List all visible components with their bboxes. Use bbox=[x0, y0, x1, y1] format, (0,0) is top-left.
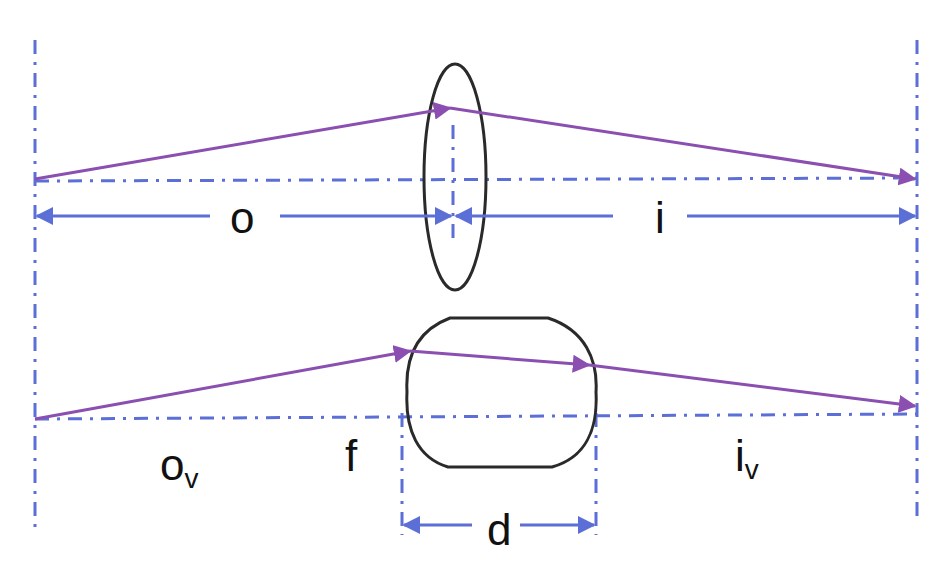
label-thickness: d bbox=[487, 508, 511, 552]
label-object-distance: o bbox=[230, 196, 254, 240]
subscript-v: v bbox=[745, 454, 759, 485]
label-image-distance: i bbox=[655, 196, 665, 240]
bottom-ray-internal bbox=[410, 351, 589, 365]
label-virtual-object-distance: ov bbox=[160, 443, 198, 493]
bottom-ray-outgoing bbox=[589, 365, 915, 406]
thin-lens bbox=[424, 64, 486, 290]
label-focal: f bbox=[345, 434, 357, 478]
label-virtual-image-distance: iv bbox=[735, 434, 759, 484]
bottom-ray-incoming bbox=[35, 351, 410, 419]
thick-lens bbox=[407, 318, 596, 467]
top-optical-axis bbox=[35, 178, 917, 181]
bottom-optical-axis bbox=[35, 414, 917, 419]
subscript-v: v bbox=[184, 463, 198, 494]
thin-and-thick-lens-diagram bbox=[0, 0, 951, 565]
top-ray-incoming bbox=[35, 108, 450, 179]
top-ray-outgoing bbox=[450, 108, 915, 179]
